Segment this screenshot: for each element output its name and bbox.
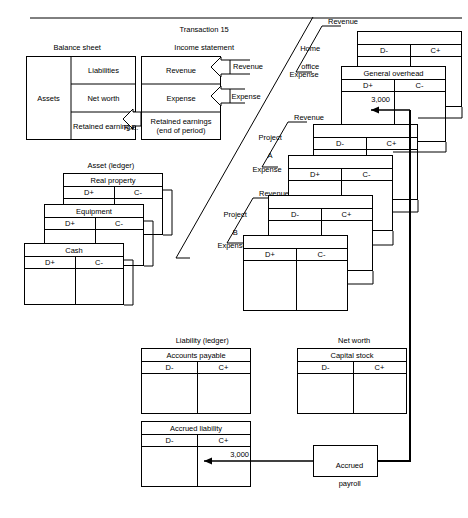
connector-lines — [0, 0, 468, 518]
diagram-canvas: Balance sheet (31 Dec 19X1) Assets Liabi… — [0, 0, 468, 518]
